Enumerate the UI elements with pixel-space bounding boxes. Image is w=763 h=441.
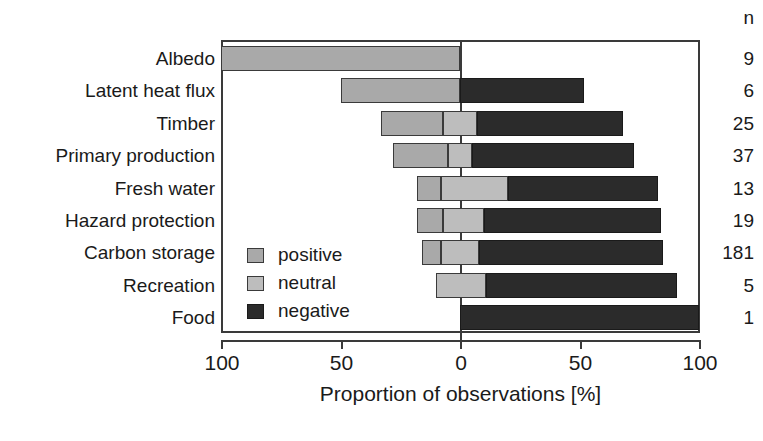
bar-segment-neutral: [436, 273, 486, 298]
category-label: Carbon storage: [0, 243, 215, 262]
legend-label: neutral: [278, 273, 336, 292]
x-axis-tick-label: 100: [192, 352, 252, 373]
bar-segment-neutral: [441, 176, 508, 201]
category-axis-labels: AlbedoLatent heat fluxTimberPrimary prod…: [0, 40, 215, 333]
x-axis-tick-label: 0: [431, 352, 491, 373]
n-value: 13: [702, 179, 754, 198]
category-label: Timber: [0, 114, 215, 133]
legend-swatch-neutral: [247, 276, 264, 291]
bar-segment-negative: [460, 78, 584, 103]
bar-row: [221, 143, 700, 168]
bar-row: [221, 176, 700, 201]
bar-row: [221, 208, 700, 233]
bar-segment-positive: [221, 46, 460, 71]
category-label: Hazard protection: [0, 211, 215, 230]
x-axis-tick-label: 50: [551, 352, 611, 373]
category-label: Albedo: [0, 49, 215, 68]
bar-segment-neutral: [443, 111, 476, 136]
bar-segment-negative: [508, 176, 659, 201]
bar-segment-negative: [460, 305, 699, 330]
n-value: 37: [702, 146, 754, 165]
bar-segment-neutral: [441, 240, 479, 265]
bar-segment-neutral: [443, 208, 484, 233]
n-value: 1: [702, 308, 754, 327]
x-axis-tick: [460, 340, 462, 349]
x-axis-tick-label: 50: [312, 352, 372, 373]
legend-label: negative: [278, 301, 350, 320]
category-label: Food: [0, 308, 215, 327]
bar-segment-positive: [381, 111, 443, 136]
x-axis-tick: [699, 340, 701, 349]
n-value: 5: [702, 276, 754, 295]
x-axis-tick: [221, 340, 223, 349]
n-value: 9: [702, 49, 754, 68]
bar-row: [221, 46, 700, 71]
category-label: Fresh water: [0, 179, 215, 198]
bar-segment-negative: [484, 208, 661, 233]
category-label: Primary production: [0, 146, 215, 165]
x-axis-tick: [580, 340, 582, 349]
category-label: Latent heat flux: [0, 81, 215, 100]
x-axis-tick-label: 100: [670, 352, 730, 373]
bar-segment-positive: [417, 208, 443, 233]
legend-swatch-negative: [247, 304, 264, 319]
x-axis-title: Proportion of observations [%]: [221, 383, 700, 404]
diverging-bar-chart: AlbedoLatent heat fluxTimberPrimary prod…: [0, 0, 763, 441]
legend-label: positive: [278, 245, 342, 264]
bar-segment-positive: [341, 78, 461, 103]
n-value: 181: [702, 243, 754, 262]
n-column: n 962537131918151: [702, 8, 763, 338]
bar-segment-negative: [477, 111, 623, 136]
bar-segment-positive: [417, 176, 441, 201]
x-axis-tick: [341, 340, 343, 349]
bar-segment-positive: [393, 143, 448, 168]
bar-row: [221, 78, 700, 103]
bar-segment-neutral: [448, 143, 472, 168]
n-value: 25: [702, 114, 754, 133]
bar-segment-positive: [422, 240, 441, 265]
bar-segment-negative: [472, 143, 635, 168]
bar-segment-negative: [479, 240, 663, 265]
category-label: Recreation: [0, 276, 215, 295]
bar-segment-negative: [486, 273, 677, 298]
n-column-header: n: [702, 8, 754, 27]
legend-swatch-positive: [247, 248, 264, 263]
n-value: 19: [702, 211, 754, 230]
bar-row: [221, 111, 700, 136]
n-value: 6: [702, 81, 754, 100]
